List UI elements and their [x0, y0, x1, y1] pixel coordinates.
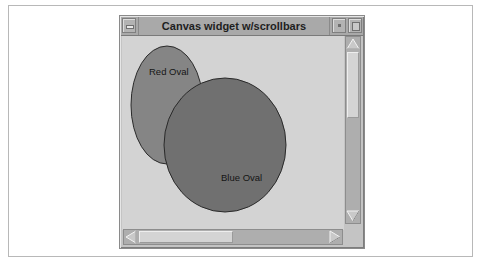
canvas-area[interactable]: Red Oval Blue Oval — [122, 36, 344, 230]
arrow-up-icon[interactable] — [346, 37, 360, 51]
arrow-right-icon[interactable] — [328, 230, 342, 244]
maximize-button[interactable] — [348, 18, 362, 33]
arrow-down-icon[interactable] — [346, 209, 360, 223]
maximize-icon — [352, 22, 360, 31]
blue-oval-label: Blue Oval — [221, 172, 262, 183]
canvas-window: Canvas widget w/scrollbars Red Oval Blue… — [119, 15, 365, 249]
vertical-scroll-thumb[interactable] — [347, 52, 359, 118]
minimize-icon — [338, 24, 341, 27]
red-oval-label: Red Oval — [149, 66, 189, 77]
minimize-button[interactable] — [332, 18, 346, 33]
scrollbar-corner — [345, 225, 361, 245]
window-title: Canvas widget w/scrollbars — [138, 17, 330, 35]
blue-oval[interactable] — [164, 78, 286, 212]
horizontal-scrollbar[interactable] — [123, 229, 343, 245]
window-menu-button[interactable] — [122, 18, 136, 33]
canvas-drawing: Red Oval Blue Oval — [122, 36, 344, 230]
title-bar[interactable]: Canvas widget w/scrollbars — [121, 17, 363, 36]
vertical-scrollbar[interactable] — [345, 36, 361, 224]
horizontal-scroll-thumb[interactable] — [139, 231, 233, 243]
arrow-left-icon[interactable] — [124, 230, 138, 244]
window-menu-icon — [126, 25, 134, 29]
